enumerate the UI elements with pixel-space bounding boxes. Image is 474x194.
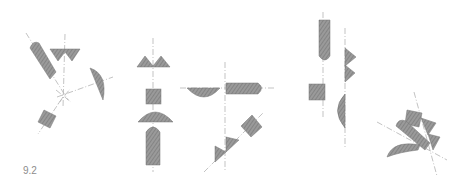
composition-vertical-stack [137, 38, 173, 172]
composition-cross-diagonal [180, 62, 275, 172]
rounded-bar-shape [30, 42, 56, 79]
rounded-bar-shape [146, 127, 160, 165]
half-disc-shape [90, 68, 104, 100]
square-shape [38, 110, 56, 128]
sketch-diagram [0, 0, 474, 194]
composition-radial [26, 33, 113, 134]
square-shape [146, 89, 161, 104]
triangle-shape [215, 146, 226, 162]
twin-triangles-shape [137, 56, 170, 67]
square-shape [241, 115, 262, 137]
rounded-bar-shape [226, 83, 262, 94]
figure-caption: 9.2 [23, 165, 37, 176]
composition-parallel-axes [309, 12, 356, 148]
triangle-shape [345, 48, 356, 66]
rounded-bar-shape [319, 20, 330, 60]
twin-triangles-shape [50, 49, 80, 61]
square-shape [309, 84, 325, 100]
composition-clustered [377, 92, 447, 176]
half-dome-shape [138, 112, 173, 122]
triangle-shape [345, 65, 355, 82]
leaf-shape [387, 144, 420, 157]
half-disc-shape [187, 88, 220, 97]
triangle-shape [428, 134, 440, 150]
half-disc-shape [338, 94, 346, 128]
